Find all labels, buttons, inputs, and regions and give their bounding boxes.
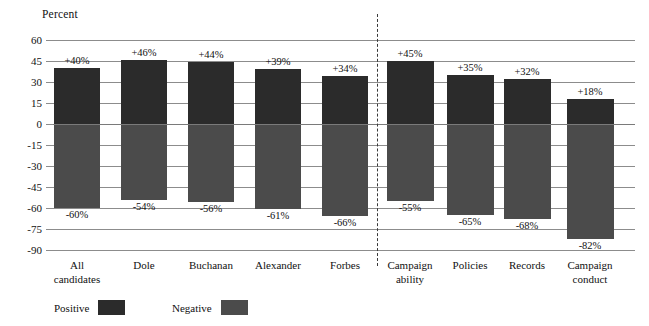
x-axis-category-label: Campaignconduct — [535, 259, 645, 286]
bar-positive — [255, 69, 301, 124]
y-tick-label-0: 0 — [0, 118, 42, 130]
bar-value-label-positive: +34% — [305, 63, 385, 74]
bar-positive — [322, 76, 368, 124]
bar-negative — [322, 125, 368, 216]
y-tick-label--30: -30 — [0, 160, 42, 172]
bar-positive — [54, 68, 100, 124]
category-label-line1: Campaign — [535, 259, 645, 273]
y-tick-mark-15 — [46, 103, 53, 104]
bar-positive — [188, 62, 234, 124]
y-tick-label--75: -75 — [0, 223, 42, 235]
legend-item-negative: Negative — [172, 300, 248, 315]
bar-positive — [567, 99, 614, 124]
plot-area: 604530150-15-30-45-60-75-90+40%-60%Allca… — [0, 0, 649, 326]
y-tick-label-15: 15 — [0, 97, 42, 109]
bar-value-label-positive: +45% — [370, 48, 450, 59]
y-tick-mark--75 — [46, 229, 53, 230]
y-tick-label--90: -90 — [0, 244, 42, 256]
bar-negative — [255, 125, 301, 209]
bar-positive — [121, 60, 167, 124]
y-tick-label-45: 45 — [0, 55, 42, 67]
y-tick-mark--15 — [46, 145, 53, 146]
bar-positive — [504, 79, 551, 124]
y-tick-label--60: -60 — [0, 202, 42, 214]
bar-negative — [447, 125, 494, 215]
y-tick-label-60: 60 — [0, 34, 42, 46]
bar-value-label-negative: -68% — [487, 220, 567, 231]
bar-negative — [387, 125, 434, 201]
bar-value-label-positive: +32% — [487, 66, 567, 77]
legend-item-positive: Positive — [54, 300, 125, 315]
y-tick-mark--45 — [46, 187, 53, 188]
legend-swatch-negative — [221, 300, 248, 315]
gridline--90 — [53, 250, 635, 251]
category-label-line2: ability — [355, 273, 465, 287]
bar-positive — [387, 61, 434, 124]
bar-value-label-negative: -82% — [550, 240, 630, 251]
y-tick-mark-0 — [46, 124, 53, 125]
bar-value-label-positive: +18% — [550, 86, 630, 97]
y-tick-label--15: -15 — [0, 139, 42, 151]
y-tick-mark--90 — [46, 250, 53, 251]
y-tick-mark--30 — [46, 166, 53, 167]
category-label-line2: candidates — [22, 273, 132, 287]
y-tick-label--45: -45 — [0, 181, 42, 193]
bar-negative — [567, 125, 614, 239]
bar-negative — [188, 125, 234, 202]
bar-negative — [54, 125, 100, 208]
bar-negative — [504, 125, 551, 219]
legend-label-positive: Positive — [54, 302, 89, 314]
bar-chart: Percent 604530150-15-30-45-60-75-90+40%-… — [0, 0, 649, 326]
bar-value-label-negative: -55% — [370, 202, 450, 213]
bar-negative — [121, 125, 167, 200]
y-tick-label-30: 30 — [0, 76, 42, 88]
y-tick-mark-60 — [46, 40, 53, 41]
group-divider-dashed-line — [377, 14, 378, 266]
legend-label-negative: Negative — [172, 302, 212, 314]
bar-positive — [447, 75, 494, 124]
legend-swatch-positive — [98, 300, 125, 315]
bar-value-label-negative: -66% — [305, 217, 385, 228]
category-label-line2: conduct — [535, 273, 645, 287]
y-tick-mark-30 — [46, 82, 53, 83]
gridline-60 — [53, 40, 635, 41]
